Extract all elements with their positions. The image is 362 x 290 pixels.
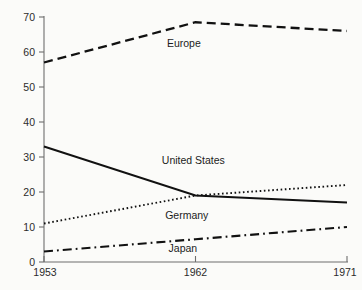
- y-axis-tick-label: 70: [23, 11, 35, 23]
- y-axis-tick-label: 10: [23, 221, 35, 233]
- series-label-europe: Europe: [167, 37, 201, 49]
- x-axis-tick-label: 1971: [333, 266, 357, 278]
- chart-canvas: 010203040506070 195319621971 EuropeUnite…: [0, 0, 362, 290]
- series-label-group: EuropeUnited StatesGermanyJapan: [162, 37, 225, 254]
- x-axis-tick-group: 195319621971: [33, 256, 357, 278]
- series-label-germany: Germany: [165, 209, 209, 221]
- y-axis-tick-label: 40: [23, 116, 35, 128]
- y-axis-tick-group: 010203040506070: [23, 11, 44, 268]
- y-axis-tick-label: 60: [23, 46, 35, 58]
- y-axis-tick-label: 20: [23, 186, 35, 198]
- series-label-united-states: United States: [162, 154, 225, 166]
- series-label-japan: Japan: [169, 242, 198, 254]
- y-axis-tick-label: 30: [23, 151, 35, 163]
- x-axis-tick-label: 1962: [184, 266, 208, 278]
- y-axis-tick-label: 50: [23, 81, 35, 93]
- line-chart-figure: 010203040506070 195319621971 EuropeUnite…: [0, 0, 362, 290]
- x-axis-tick-label: 1953: [33, 266, 57, 278]
